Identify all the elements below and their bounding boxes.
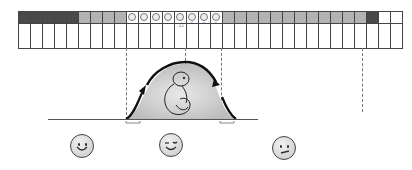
day-status-cell: ‘: [199, 11, 210, 24]
day-status-cell: [319, 11, 330, 24]
cycle-day-23: [283, 11, 295, 49]
cycle-day-5: [67, 11, 79, 49]
day-note-cell: [247, 24, 258, 49]
egg-icon: [128, 13, 136, 21]
day-status-cell: [271, 11, 282, 24]
cycle-day-17: ‘: [211, 11, 223, 49]
day-status-cell: [163, 11, 174, 24]
day-status-cell: [331, 11, 342, 24]
day-status-cell: △: [175, 11, 186, 24]
day-status-cell: [103, 11, 114, 24]
day-status-cell: [223, 11, 234, 24]
day-status-cell: [283, 11, 294, 24]
cycle-day-28: [343, 11, 355, 49]
cycle-day-11: [139, 11, 151, 49]
cycle-day-14: △: [175, 11, 187, 49]
cycle-day-22: [271, 11, 283, 49]
day-note-cell: [211, 24, 222, 49]
day-status-cell: [307, 11, 318, 24]
cycle-day-9: [115, 11, 127, 49]
day-status-cell: [235, 11, 246, 24]
cycle-day-25: [307, 11, 319, 49]
day-status-cell: [115, 11, 126, 24]
day-note-cell: [367, 24, 378, 49]
cycle-day-18: [223, 11, 235, 49]
day-status-cell: [379, 11, 390, 24]
day-note-cell: [55, 24, 66, 49]
next-cycle-guide: [362, 48, 363, 112]
day-note-cell: [19, 24, 30, 49]
day-note-cell: [223, 24, 234, 49]
day-note-cell: [259, 24, 270, 49]
cycle-calendar-grid: △‘‘‘: [18, 11, 403, 49]
day-note-cell: [115, 24, 126, 49]
day-status-cell: [259, 11, 270, 24]
day-status-cell: [391, 11, 402, 24]
cycle-day-21: [259, 11, 271, 49]
day-note-cell: [187, 24, 198, 49]
cycle-day-19: [235, 11, 247, 49]
egg-icon: [140, 13, 148, 21]
day-status-cell: [247, 11, 258, 24]
cycle-day-3: [43, 11, 55, 49]
ovulation-marker-icon: △: [179, 21, 184, 27]
wink-face-icon: [159, 133, 183, 157]
day-note-cell: [295, 24, 306, 49]
day-status-cell: [79, 11, 90, 24]
day-note-cell: [139, 24, 150, 49]
cycle-day-4: [55, 11, 67, 49]
sperm-marker-icon: ‘: [203, 21, 205, 27]
day-note-cell: [355, 24, 366, 49]
day-note-cell: [163, 24, 174, 49]
cycle-day-8: [103, 11, 115, 49]
cycle-day-13: [163, 11, 175, 49]
day-status-cell: [91, 11, 102, 24]
cycle-day-12: [151, 11, 163, 49]
day-note-cell: [331, 24, 342, 49]
cycle-day-15: ‘: [187, 11, 199, 49]
day-status-cell: [43, 11, 54, 24]
cycle-day-31: [379, 11, 391, 49]
day-note-cell: [127, 24, 138, 49]
day-status-cell: ‘: [211, 11, 222, 24]
day-status-cell: [127, 11, 138, 24]
day-note-cell: [175, 24, 186, 49]
cycle-day-27: [331, 11, 343, 49]
day-note-cell: [235, 24, 246, 49]
day-note-cell: [199, 24, 210, 49]
day-note-cell: [391, 24, 402, 49]
sad-face-icon: [272, 136, 296, 160]
day-note-cell: [91, 24, 102, 49]
day-note-cell: [103, 24, 114, 49]
day-note-cell: [79, 24, 90, 49]
egg-icon: [152, 13, 160, 21]
curve-baseline: [48, 119, 258, 120]
cycle-day-30: [367, 11, 379, 49]
day-status-cell: [295, 11, 306, 24]
day-note-cell: [151, 24, 162, 49]
cycle-day-6: [79, 11, 91, 49]
day-status-cell: [355, 11, 366, 24]
day-status-cell: [367, 11, 378, 24]
cycle-day-16: ‘: [199, 11, 211, 49]
day-status-cell: ‘: [187, 11, 198, 24]
day-note-cell: [31, 24, 42, 49]
day-note-cell: [343, 24, 354, 49]
day-status-cell: [151, 11, 162, 24]
day-note-cell: [307, 24, 318, 49]
cycle-day-29: [355, 11, 367, 49]
day-status-cell: [67, 11, 78, 24]
cycle-day-32: [391, 11, 403, 49]
fertility-diagram: △‘‘‘: [0, 0, 412, 170]
day-note-cell: [283, 24, 294, 49]
cycle-day-20: [247, 11, 259, 49]
fertility-curve: [110, 55, 250, 125]
cycle-day-1: [19, 11, 31, 49]
day-status-cell: [55, 11, 66, 24]
day-note-cell: [379, 24, 390, 49]
cycle-day-2: [31, 11, 43, 49]
cycle-day-10: [127, 11, 139, 49]
cycle-day-24: [295, 11, 307, 49]
sperm-marker-icon: ‘: [191, 21, 193, 27]
day-note-cell: [67, 24, 78, 49]
